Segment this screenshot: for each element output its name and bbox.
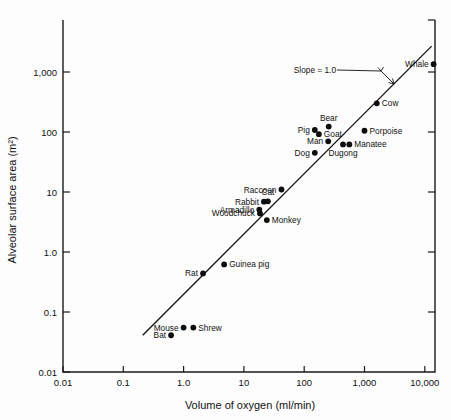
data-point-whale xyxy=(431,61,437,67)
chart-svg: Slope = 1.0 BatMouseShrewRatGuinea pigWo… xyxy=(0,0,451,420)
y-tick-label: 10 xyxy=(46,187,57,198)
x-tick-label: 1.0 xyxy=(177,377,190,388)
point-label-raccoon: Raccoon xyxy=(244,185,277,195)
y-tick-label: 0.1 xyxy=(44,307,57,318)
data-point-porpoise xyxy=(362,128,368,134)
point-label-whale: Whale xyxy=(405,59,429,69)
point-label-dog: Dog xyxy=(295,148,311,158)
point-label-pig: Pig xyxy=(298,125,310,135)
data-point-guinea-pig xyxy=(221,262,227,268)
data-point-man xyxy=(325,138,331,144)
alveolar-surface-area-scatter-chart: Slope = 1.0 BatMouseShrewRatGuinea pigWo… xyxy=(0,0,451,420)
data-point-dog xyxy=(312,150,318,156)
point-label-cow: Cow xyxy=(382,98,400,108)
x-tick-label: 0.1 xyxy=(117,377,130,388)
data-point-cat xyxy=(265,198,271,204)
data-point-monkey xyxy=(264,217,270,223)
data-points-layer: BatMouseShrewRatGuinea pigWoodchuckArmad… xyxy=(154,59,437,340)
y-axis-title: Alveolar surface area (m²) xyxy=(6,136,18,263)
slope-leader-line xyxy=(337,70,381,71)
point-label-guinea-pig: Guinea pig xyxy=(229,259,270,269)
data-point-shrew xyxy=(190,325,196,331)
slope-arrow-shaft xyxy=(381,71,394,84)
data-point-dugong xyxy=(340,142,346,148)
y-tick-labels: 0.010.11.0101001,000 xyxy=(33,67,57,378)
point-label-rabbit: Rabbit xyxy=(235,197,260,207)
point-label-dugong: Dugong xyxy=(328,148,357,158)
point-label-mouse: Mouse xyxy=(154,323,179,333)
data-point-cow xyxy=(374,100,380,106)
y-tick-label: 100 xyxy=(41,127,57,138)
point-label-rat: Rat xyxy=(185,268,199,278)
x-tick-label: 100 xyxy=(296,377,312,388)
data-point-pig xyxy=(312,127,318,133)
point-label-man: Man xyxy=(307,136,324,146)
point-label-goat: Goat xyxy=(324,129,343,139)
x-tick-label: 1,000 xyxy=(353,377,377,388)
data-point-raccoon xyxy=(279,187,285,193)
slope-annotation-label: Slope = 1.0 xyxy=(294,65,337,75)
x-axis-title: Volume of oxygen (ml/min) xyxy=(185,399,315,411)
point-label-porpoise: Porpoise xyxy=(370,126,403,136)
trend-line xyxy=(143,46,432,335)
trend-line-path xyxy=(143,46,432,335)
y-tick-label: 1,000 xyxy=(33,67,57,78)
x-tick-labels: 0.010.11.0101001,00010,000 xyxy=(54,377,440,388)
x-axis-ticks xyxy=(63,366,425,372)
data-point-bear xyxy=(326,124,332,130)
data-point-manatee xyxy=(346,142,352,148)
y-tick-label: 1.0 xyxy=(44,247,57,258)
data-point-bat xyxy=(168,332,174,338)
slope-annotation: Slope = 1.0 xyxy=(294,65,394,84)
data-point-rat xyxy=(200,270,206,276)
data-point-mouse xyxy=(181,325,187,331)
data-point-armadillo xyxy=(256,207,262,213)
point-label-monkey: Monkey xyxy=(272,215,302,225)
x-tick-label: 10,000 xyxy=(410,377,439,388)
slope-leader-tail xyxy=(378,67,384,71)
y-axis-ticks xyxy=(63,72,70,372)
y-tick-label: 0.01 xyxy=(39,367,58,378)
x-tick-label: 10 xyxy=(239,377,250,388)
point-label-manatee: Manatee xyxy=(354,139,387,149)
point-label-shrew: Shrew xyxy=(198,323,223,333)
x-tick-label: 0.01 xyxy=(54,377,73,388)
point-label-bear: Bear xyxy=(320,113,338,123)
